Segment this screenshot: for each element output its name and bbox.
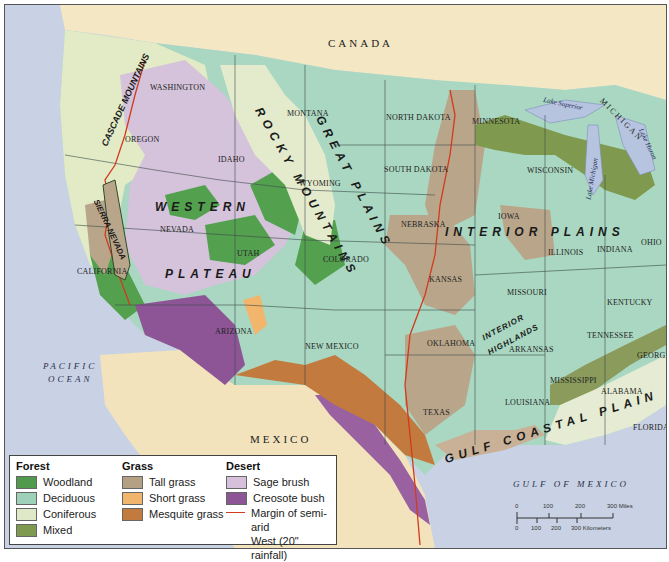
label-pacific-ocean: PACIFIC OCEAN bbox=[43, 360, 97, 386]
label-kansas: KANSAS bbox=[429, 275, 462, 284]
label-california: CALIFORNIA bbox=[77, 267, 127, 276]
label-oregon: OREGON bbox=[125, 135, 160, 144]
swatch-mesquite-grass bbox=[122, 508, 143, 521]
legend-forest-group: Forest Woodland Deciduous Coniferous Mix… bbox=[16, 460, 96, 538]
swatch-tall-grass bbox=[122, 476, 143, 489]
legend-item-short-grass: Short grass bbox=[122, 490, 224, 506]
label-interior-plains: INTERIOR PLAINS bbox=[445, 225, 625, 239]
label-mississippi: MISSISSIPPI bbox=[550, 376, 597, 385]
legend-item-creosote-bush: Creosote bush bbox=[226, 490, 336, 506]
label-tennessee: TENNESSEE bbox=[587, 331, 634, 340]
label-south-dakota: SOUTH DAKOTA bbox=[384, 165, 448, 174]
legend-item-mesquite-grass: Mesquite grass bbox=[122, 506, 224, 522]
label-plateau: PLATEAU bbox=[165, 267, 256, 281]
label-minnesota: MINNESOTA bbox=[472, 117, 520, 126]
label-colorado: COLORADO bbox=[323, 255, 369, 264]
swatch-mixed bbox=[16, 524, 37, 537]
label-arkansas: ARKANSAS bbox=[509, 345, 554, 354]
label-wyoming: WYOMING bbox=[299, 179, 341, 188]
label-idaho: IDAHO bbox=[218, 155, 245, 164]
swatch-creosote-bush bbox=[226, 492, 247, 505]
swatch-deciduous bbox=[16, 492, 37, 505]
scale-bar: 0 100 200 300 Miles 0 100 200 300 Kilome… bbox=[513, 500, 663, 540]
label-georgia: GEORGIA bbox=[637, 351, 667, 360]
label-nevada: NEVADA bbox=[160, 225, 194, 234]
label-texas: TEXAS bbox=[423, 408, 450, 417]
label-montana: MONTANA bbox=[287, 109, 329, 118]
label-indiana: INDIANA bbox=[597, 245, 633, 254]
legend-item-coniferous: Coniferous bbox=[16, 506, 96, 522]
label-north-dakota: NORTH DAKOTA bbox=[386, 113, 451, 122]
label-alabama: ALABAMA bbox=[601, 387, 643, 396]
label-western: WESTERN bbox=[155, 200, 250, 214]
legend-item-semi-arid-margin: Margin of semi-aridWest (20" rainfall) bbox=[226, 506, 336, 562]
swatch-woodland bbox=[16, 476, 37, 489]
legend-forest-title: Forest bbox=[16, 460, 96, 472]
label-oklahoma: OKLAHOMA bbox=[427, 339, 475, 348]
legend-item-tall-grass: Tall grass bbox=[122, 474, 224, 490]
label-new-mexico: NEW MEXICO bbox=[305, 342, 359, 351]
scale-bar-graphic bbox=[513, 500, 663, 540]
label-canada: CANADA bbox=[328, 37, 393, 49]
legend-grass-group: Grass Tall grass Short grass Mesquite gr… bbox=[122, 460, 224, 522]
semi-arid-line-icon bbox=[226, 512, 245, 513]
legend-desert-group: Desert Sage brush Creosote bush Margin o… bbox=[226, 460, 336, 562]
label-iowa: IOWA bbox=[498, 212, 520, 221]
legend-item-deciduous: Deciduous bbox=[16, 490, 96, 506]
map-legend: Forest Woodland Deciduous Coniferous Mix… bbox=[9, 455, 337, 545]
legend-item-sage-brush: Sage brush bbox=[226, 474, 336, 490]
label-utah: UTAH bbox=[237, 249, 259, 258]
swatch-sage-brush bbox=[226, 476, 247, 489]
label-missouri: MISSOURI bbox=[507, 288, 547, 297]
label-illinois: ILLINOIS bbox=[548, 248, 583, 257]
swatch-short-grass bbox=[122, 492, 143, 505]
label-washington: WASHINGTON bbox=[150, 83, 205, 92]
label-louisiana: LOUISIANA bbox=[505, 398, 550, 407]
label-nebraska: NEBRASKA bbox=[401, 220, 446, 229]
legend-grass-title: Grass bbox=[122, 460, 224, 472]
legend-item-mixed: Mixed bbox=[16, 522, 96, 538]
legend-item-woodland: Woodland bbox=[16, 474, 96, 490]
label-mexico: MEXICO bbox=[250, 433, 311, 445]
label-wisconsin: WISCONSIN bbox=[527, 166, 573, 175]
label-gulf-of-mexico: GULF OF MEXICO bbox=[513, 478, 629, 491]
swatch-coniferous bbox=[16, 508, 37, 521]
legend-desert-title: Desert bbox=[226, 460, 336, 472]
label-kentucky: KENTUCKY bbox=[607, 298, 653, 307]
label-arizona: ARIZONA bbox=[215, 327, 252, 336]
label-ohio: OHIO bbox=[641, 238, 662, 247]
label-florida: FLORIDA bbox=[633, 423, 667, 432]
